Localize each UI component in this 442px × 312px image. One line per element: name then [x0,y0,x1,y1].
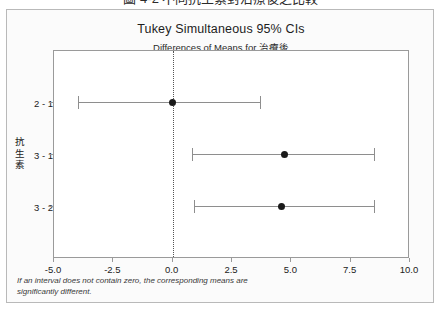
x-tick-label: 7.5 [330,264,370,275]
footnote: If an interval does not contain zero, th… [17,276,317,297]
x-tick-mark [409,258,410,262]
top-caption-text: 圖 4-2 不同抗生素對治療後之比較 [0,0,442,7]
plot-inner [54,51,408,257]
interval-lower-cap [194,200,195,213]
chart-title: Tukey Simultaneous 95% CIs [7,22,435,36]
interval-row [54,94,408,112]
interval-center-point [169,99,176,106]
x-tick-mark [231,258,232,262]
interval-center-point [278,203,285,210]
interval-center-point [281,151,288,158]
y-tick-label: 3 - 1 [11,150,53,161]
x-tick-mark [53,258,54,262]
x-tick-label: 0.0 [152,264,192,275]
x-tick-mark [350,258,351,262]
x-tick-label: 5.0 [270,264,310,275]
interval-lower-cap [78,96,79,109]
footnote-line-1: If an interval does not contain zero, th… [17,276,317,287]
y-axis: 2 - 13 - 13 - 2 [7,50,53,258]
x-tick-label: -5.0 [33,264,73,275]
x-tick-label: 2.5 [211,264,251,275]
x-tick-mark [112,258,113,262]
figure-panel: Tukey Simultaneous 95% CIs Differences o… [6,9,434,303]
interval-lower-cap [192,148,193,161]
plot-area [53,50,409,258]
x-tick-mark [172,258,173,262]
interval-row [54,198,408,216]
x-tick-mark [290,258,291,262]
interval-upper-cap [374,200,375,213]
interval-row [54,146,408,164]
footnote-line-2: significantly different. [17,287,317,298]
y-tick-label: 2 - 1 [11,98,53,109]
x-tick-label: 10.0 [389,264,429,275]
interval-upper-cap [260,96,261,109]
interval-upper-cap [374,148,375,161]
top-caption-strip: 圖 4-2 不同抗生素對治療後之比較 [0,0,442,9]
y-tick-label: 3 - 2 [11,202,53,213]
x-tick-label: -2.5 [92,264,132,275]
